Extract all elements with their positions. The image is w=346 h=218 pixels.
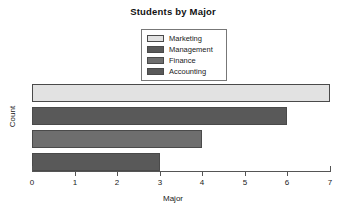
legend-label-finance: Finance bbox=[169, 55, 196, 66]
x-tick-2 bbox=[117, 171, 118, 176]
x-tick-1 bbox=[75, 171, 76, 176]
x-tick-5 bbox=[245, 171, 246, 176]
x-tick-label-3: 3 bbox=[150, 178, 170, 187]
x-tick-label-7: 7 bbox=[320, 178, 340, 187]
x-tick-label-1: 1 bbox=[65, 178, 85, 187]
bar-marketing bbox=[32, 84, 330, 102]
x-tick-label-2: 2 bbox=[107, 178, 127, 187]
legend-swatch-accounting bbox=[147, 68, 164, 75]
x-axis-label: Major bbox=[0, 194, 346, 203]
legend-swatch-finance bbox=[147, 57, 164, 64]
bar-accounting bbox=[32, 153, 160, 171]
bar-finance bbox=[32, 130, 202, 148]
chart-legend: MarketingManagementFinanceAccounting bbox=[141, 29, 227, 81]
x-tick-label-6: 6 bbox=[277, 178, 297, 187]
x-axis-line bbox=[32, 171, 330, 172]
bar-chart: Students by Major 01234567 Major Count M… bbox=[0, 0, 346, 218]
x-tick-4 bbox=[202, 171, 203, 176]
legend-swatch-marketing bbox=[147, 35, 164, 42]
x-tick-label-4: 4 bbox=[192, 178, 212, 187]
chart-title: Students by Major bbox=[0, 6, 346, 17]
x-tick-label-0: 0 bbox=[22, 178, 42, 187]
legend-label-accounting: Accounting bbox=[169, 66, 206, 77]
bar-management bbox=[32, 107, 287, 125]
x-tick-0 bbox=[32, 166, 33, 172]
legend-label-management: Management bbox=[169, 44, 213, 55]
legend-item-accounting: Accounting bbox=[147, 66, 222, 77]
y-axis-label: Count bbox=[8, 87, 17, 147]
legend-swatch-management bbox=[147, 46, 164, 53]
legend-item-finance: Finance bbox=[147, 55, 222, 66]
x-tick-7 bbox=[330, 166, 331, 172]
legend-item-marketing: Marketing bbox=[147, 33, 222, 44]
x-tick-label-5: 5 bbox=[235, 178, 255, 187]
x-tick-3 bbox=[160, 171, 161, 176]
legend-item-management: Management bbox=[147, 44, 222, 55]
x-tick-6 bbox=[287, 171, 288, 176]
legend-label-marketing: Marketing bbox=[169, 33, 202, 44]
